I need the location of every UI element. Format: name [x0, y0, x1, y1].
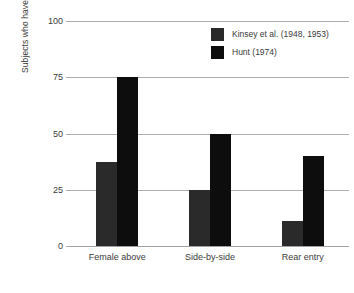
bar-chart-figure: Subjects who have used position (%) 0255… [0, 0, 354, 293]
y-tick-label-0: 0 [23, 242, 63, 251]
bar-group [71, 21, 164, 246]
x-tick-label: Rear entry [256, 252, 349, 263]
bar [96, 162, 117, 246]
bar [282, 221, 303, 246]
legend-label: Hunt (1974) [232, 46, 277, 59]
bar [210, 134, 231, 247]
y-tick-label-75: 75 [23, 73, 63, 82]
legend-label: Kinsey et al. (1948, 1953) [232, 28, 329, 41]
bar [189, 190, 210, 246]
legend-entry: Kinsey et al. (1948, 1953) [211, 28, 329, 41]
bar [117, 77, 138, 246]
y-tick-label-100: 100 [23, 17, 63, 26]
x-tick-label: Side-by-side [164, 252, 257, 263]
gridline-0 [71, 246, 349, 247]
bar [303, 156, 324, 246]
x-tick-label: Female above [71, 252, 164, 263]
y-axis-title: Subjects who have used position (%) [18, 0, 32, 73]
y-tick-label-50: 50 [23, 130, 63, 139]
legend-swatch-icon [211, 28, 224, 41]
legend: Kinsey et al. (1948, 1953)Hunt (1974) [211, 28, 329, 64]
y-tick-label-25: 25 [23, 186, 63, 195]
legend-swatch-icon [211, 46, 224, 59]
legend-entry: Hunt (1974) [211, 46, 329, 59]
y-tick-mark-0 [66, 246, 71, 247]
